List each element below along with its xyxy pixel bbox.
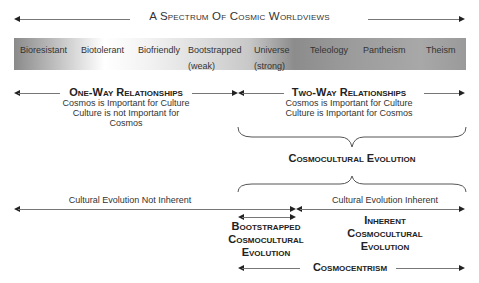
spectrum-label: Biofriendly	[138, 45, 180, 55]
two-way-line2: Culture is Important for Cosmos	[284, 108, 414, 118]
two-way-line1: Cosmos is Important for Culture	[284, 98, 414, 108]
spectrum-label: Universe	[254, 45, 290, 55]
spectrum-label: Biotolerant	[81, 45, 124, 55]
spectrum-sublabel: (weak)	[188, 58, 242, 74]
upper-brace	[236, 125, 468, 155]
spectrum-sublabel: (strong)	[254, 58, 290, 74]
not-inherent-label: Cultural Evolution Not Inherent	[30, 195, 230, 205]
inherent-ce-line3: Evolution	[340, 240, 430, 253]
two-way-heading: Two-Way Relationships	[284, 86, 414, 98]
one-way-line1: Cosmos is Important for Culture	[60, 98, 192, 108]
arrow-right-icon	[459, 206, 465, 212]
inherent-ce-block: Inherent Cosmocultural Evolution	[340, 214, 430, 253]
spectrum-item-bioresistant: Bioresistant	[20, 42, 67, 58]
one-way-heading: One-Way Relationships	[60, 86, 192, 98]
bootstrapped-ce-line1: Bootstrapped	[222, 220, 310, 233]
arrow-right-icon	[459, 90, 465, 96]
diagram-title: A Spectrum Of Cosmic Worldviews	[0, 10, 479, 22]
cosmocentrism-label: Cosmocentrism	[300, 261, 400, 273]
spectrum-item-biofriendly: Biofriendly	[138, 42, 180, 58]
bootstrapped-line	[242, 217, 290, 218]
cosmocentrism-right-line	[396, 268, 460, 269]
spectrum-label: Pantheism	[363, 45, 406, 55]
bootstrapped-ce-block: Bootstrapped Cosmocultural Evolution	[222, 220, 310, 259]
inherent-ce-line2: Cosmocultural	[340, 227, 430, 240]
spectrum-item-pantheism: Pantheism	[363, 42, 406, 58]
cosmocultural-evolution-label: Cosmocultural Evolution	[236, 152, 468, 164]
one-way-right-line	[192, 93, 232, 94]
cosmocentrism-left-line	[242, 268, 300, 269]
not-inherent-line	[18, 209, 290, 210]
spectrum-label: Bioresistant	[20, 45, 67, 55]
one-way-block: One-Way Relationships Cosmos is Importan…	[60, 86, 192, 128]
two-way-block: Two-Way Relationships Cosmos is Importan…	[284, 86, 414, 118]
spectrum-item-universe: Universe(strong)	[254, 42, 290, 74]
inherent-label: Cultural Evolution Inherent	[310, 195, 460, 205]
spectrum-label: Bootstrapped	[188, 45, 242, 55]
spectrum-label: Teleology	[310, 45, 348, 55]
spectrum-bar: Bioresistant Biotolerant Biofriendly Boo…	[14, 38, 466, 70]
spectrum-item-bootstrapped: Bootstrapped(weak)	[188, 42, 242, 74]
arrow-right-icon	[459, 16, 465, 22]
inherent-line	[300, 209, 460, 210]
two-way-left-line	[242, 93, 284, 94]
bootstrapped-ce-line2: Cosmocultural	[222, 233, 310, 246]
spectrum-item-theism: Theism	[426, 42, 456, 58]
spectrum-item-teleology: Teleology	[310, 42, 348, 58]
spectrum-item-biotolerant: Biotolerant	[81, 42, 124, 58]
arrow-right-icon	[459, 265, 465, 271]
title-right-line	[368, 19, 460, 20]
bootstrapped-ce-line3: Evolution	[222, 246, 310, 259]
inherent-ce-line1: Inherent	[340, 214, 430, 227]
one-way-line2: Culture is not Important for Cosmos	[60, 108, 192, 128]
two-way-right-line	[424, 93, 460, 94]
spectrum-label: Theism	[426, 45, 456, 55]
one-way-left-line	[18, 93, 60, 94]
